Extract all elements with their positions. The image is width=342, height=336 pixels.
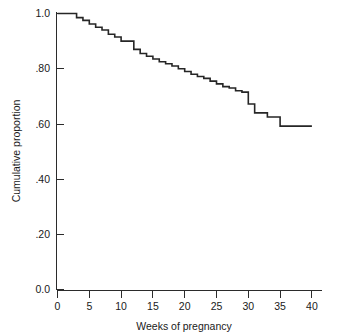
y-tick-label-020: .20 <box>35 228 50 240</box>
x-axis-title: Weeks of pregnancy <box>136 320 232 332</box>
x-tick-label-30: 30 <box>242 300 254 312</box>
y-tick-label-040: .40 <box>35 173 50 185</box>
x-tick-label-35: 35 <box>274 300 286 312</box>
y-tick-label-1: 1.0 <box>35 7 50 19</box>
x-tick-label-5: 5 <box>86 300 92 312</box>
y-tick-label-080: .80 <box>35 62 50 74</box>
x-tick-label-40: 40 <box>306 300 318 312</box>
y-axis-title: Cumulative proportion <box>10 99 22 202</box>
x-tick-label-20: 20 <box>179 300 191 312</box>
x-axis-ticks <box>58 291 312 299</box>
x-tick-label-15: 15 <box>147 300 159 312</box>
y-tick-label-060: .60 <box>35 118 50 130</box>
x-tick-label-0: 0 <box>55 300 61 312</box>
x-tick-label-25: 25 <box>211 300 223 312</box>
y-axis-ticks <box>57 14 65 290</box>
x-tick-label-10: 10 <box>115 300 127 312</box>
y-tick-label-000: 0.0 <box>35 283 50 295</box>
chart-container: 1.0 .80 .60 .40 .20 0.0 0 5 10 15 20 25 … <box>0 0 342 336</box>
survival-step-line <box>58 14 312 127</box>
survival-curve-plot: 1.0 .80 .60 .40 .20 0.0 0 5 10 15 20 25 … <box>0 0 342 336</box>
